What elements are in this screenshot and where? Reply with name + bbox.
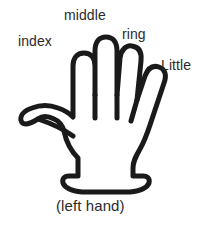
hand-diagram-figure: index middle ring Little (left hand) [0,0,213,229]
finger-label-little: Little [161,58,191,72]
finger-label-ring: ring [122,27,146,41]
finger-label-index: index [18,34,52,48]
hand-outline-path [21,37,166,192]
finger-label-middle: middle [64,8,106,22]
figure-caption: (left hand) [56,198,125,213]
